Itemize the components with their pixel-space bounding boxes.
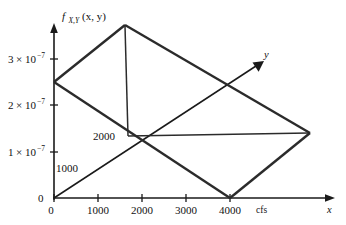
vertical-tick-2-exponent: −7 (37, 97, 45, 106)
depth-tick-label-1000: 1000 (56, 162, 79, 174)
edge-upper-left (54, 25, 125, 82)
edge-upper-right (125, 25, 310, 133)
horizontal-tick-labels: 0 1000 2000 3000 4000 (48, 204, 241, 216)
vertical-axis-label: f X,Y (x, y) (62, 10, 106, 25)
vertical-tick-1-coeff: 1 (8, 146, 14, 158)
vertical-axis-arrowhead (50, 23, 58, 33)
edge-lower-right (230, 133, 310, 198)
vertical-tick-3-times: × (16, 53, 22, 65)
vertical-tick-3-exponent: −7 (37, 51, 45, 60)
horizontal-tick-label-0: 0 (48, 204, 54, 216)
vertical-tick-3-base: 10 (25, 53, 37, 65)
depth-tick-label-2000: 2000 (93, 130, 116, 142)
vertical-tick-1-base: 10 (25, 146, 37, 158)
vertical-axis-label-f: f (62, 10, 67, 22)
vertical-tick-labels: 3 × 10 −7 2 × 10 −7 1 × 10 −7 0 (8, 51, 45, 204)
figure-canvas: f X,Y (x, y) 3 × 10 −7 2 × 10 −7 1 × 10 … (0, 0, 346, 225)
horizontal-tick-label-3000: 3000 (175, 204, 198, 216)
edge-mid-horizontal (128, 133, 309, 136)
vertical-tick-1-times: × (16, 146, 22, 158)
vertical-tick-3-coeff: 3 (8, 53, 14, 65)
vertical-tick-2-times: × (16, 99, 22, 111)
vertical-tick-label-2: 2 × 10 −7 (8, 97, 45, 111)
joint-density-surface-plot: f X,Y (x, y) 3 × 10 −7 2 × 10 −7 1 × 10 … (0, 0, 346, 225)
vertical-tick-2-base: 10 (25, 99, 37, 111)
edge-ridge-vertical (125, 26, 128, 136)
horizontal-axis-unit-label: cfs (256, 205, 267, 215)
horizontal-axis-name: x (326, 204, 332, 215)
horizontal-tick-label-1000: 1000 (87, 204, 110, 216)
vertical-axis-label-args: (x, y) (82, 10, 106, 23)
vertical-tick-label-1: 1 × 10 −7 (8, 144, 45, 158)
vertical-tick-2-coeff: 2 (8, 99, 14, 111)
vertical-tick-label-3: 3 × 10 −7 (8, 51, 45, 65)
vertical-tick-1-exponent: −7 (37, 144, 45, 153)
depth-axis-name: y (263, 49, 269, 60)
horizontal-tick-label-2000: 2000 (131, 204, 154, 216)
horizontal-tick-label-4000: 4000 (219, 204, 242, 216)
horizontal-axis-arrowhead (325, 194, 335, 201)
vertical-tick-label-0: 0 (38, 192, 44, 204)
depth-axis-line (54, 66, 256, 198)
vertical-axis-label-subscript: X,Y (68, 16, 80, 25)
